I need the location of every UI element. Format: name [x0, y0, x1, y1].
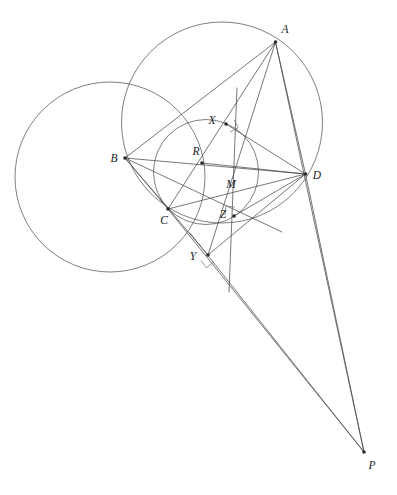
segment-X-Y-extended: [229, 88, 237, 292]
vertex-dot-B: [123, 156, 127, 160]
point-label-R: R: [191, 145, 199, 157]
point-label-B: B: [110, 152, 117, 164]
vertex-dot-P: [362, 450, 366, 454]
segment-D-P: [306, 174, 365, 452]
vertex-dot-C: [166, 207, 170, 211]
vertex-dot-D: [304, 172, 308, 176]
vertex-dots-layer: [123, 40, 366, 454]
point-label-A: A: [280, 23, 289, 35]
circumcircle-through-A-B-C-D: [122, 22, 323, 223]
point-label-M: M: [225, 178, 237, 190]
segment-Z-D: [234, 174, 306, 216]
segment-B-D: [125, 158, 306, 174]
segment-Y-P: [190, 233, 364, 452]
vertex-dot-A: [274, 40, 278, 44]
right-angle-at-Y: [201, 261, 214, 268]
vertex-dot-Z: [232, 214, 236, 218]
point-label-C: C: [160, 214, 168, 226]
vertex-dot-R: [200, 161, 204, 165]
point-label-P: P: [367, 459, 375, 471]
circles-layer: [15, 22, 323, 272]
geometry-svg: ABCDPXYZRM: [0, 0, 397, 495]
left-circle-through-B-C: [15, 82, 205, 272]
vertex-dot-X: [224, 122, 228, 126]
segment-A-C: [168, 42, 276, 209]
segments-layer: [125, 42, 364, 452]
geometry-diagram-canvas: ABCDPXYZRM: [0, 0, 397, 495]
point-label-X: X: [207, 114, 216, 126]
point-labels-layer: ABCDPXYZRM: [110, 23, 375, 471]
point-label-Z: Z: [220, 208, 227, 220]
vertex-dot-Y: [206, 253, 210, 257]
point-label-D: D: [312, 169, 322, 181]
point-label-Y: Y: [190, 250, 198, 262]
